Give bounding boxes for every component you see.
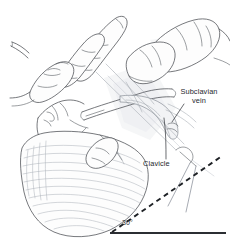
medical-illustration-subclavian-cannulation: Subclavian vein Clavicle 30° xyxy=(0,0,230,243)
label-subclavian-vein: Subclavian vein xyxy=(174,88,224,105)
illustration-canvas xyxy=(0,0,230,243)
label-clavicle: Clavicle xyxy=(143,160,170,169)
label-angle-30-degrees: 30° xyxy=(122,219,133,228)
